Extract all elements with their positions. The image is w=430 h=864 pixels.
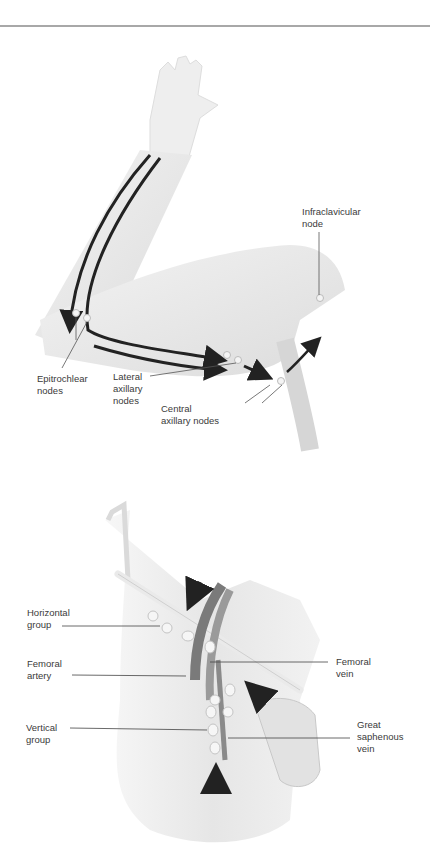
- lateral-axillary-node: [224, 352, 231, 359]
- infraclavicular-node: [317, 295, 324, 302]
- label-vertical-group: Vertical group: [26, 722, 57, 746]
- label-femoral-artery: Femoral artery: [27, 658, 62, 682]
- label-femoral-vein: Femoral vein: [336, 656, 371, 680]
- lateral-axillary-node: [235, 357, 242, 364]
- label-lateral-axillary-nodes: Lateral axillary nodes: [113, 371, 143, 407]
- label-horizontal-group: Horizontal group: [27, 607, 70, 631]
- epitrochlear-node: [84, 315, 91, 322]
- epitrochlear-node: [73, 310, 80, 317]
- hand-shape: [150, 56, 218, 160]
- label-central-axillary-nodes: Central axillary nodes: [161, 403, 219, 427]
- label-infraclavicular-node: Infraclavicular node: [302, 206, 361, 230]
- central-axillary-node: [278, 378, 285, 385]
- inguinal-figure: [62, 505, 350, 842]
- label-epitrochlear-nodes: Epitrochlear nodes: [37, 373, 88, 397]
- label-great-saphenous-vein: Great saphenous vein: [357, 719, 403, 755]
